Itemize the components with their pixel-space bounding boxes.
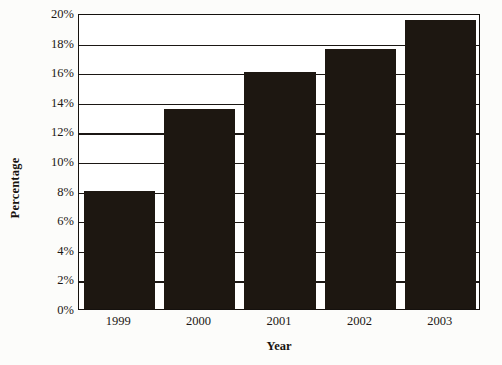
y-axis-tick-label: 18% [30,38,74,50]
y-axis-tick-label: 2% [30,274,74,286]
y-axis-tick-labels: 0%2%4%6%8%10%12%14%16%18%20% [26,0,74,365]
bar [244,72,315,309]
y-axis-title: Percentage [8,128,26,248]
bar [405,20,476,309]
y-axis-tick-label: 10% [30,156,74,168]
x-axis-tick-label: 2000 [158,314,238,329]
x-axis-tick-label: 2001 [239,314,319,329]
bar [325,49,396,309]
y-axis-tick-label: 6% [30,215,74,227]
bar-series [79,15,479,309]
x-axis-tick-labels: 19992000200120022003 [78,314,480,334]
y-axis-tick-label: 14% [30,97,74,109]
y-axis-tick-label: 12% [30,126,74,138]
y-axis-tick-label: 16% [30,67,74,79]
bar [84,191,155,309]
y-axis-tick-label: 8% [30,186,74,198]
plot-area [78,14,480,310]
x-axis-tick-label: 1999 [78,314,158,329]
x-axis-tick-label: 2002 [319,314,399,329]
bar-chart: Percentage 0%2%4%6%8%10%12%14%16%18%20% … [0,0,502,365]
y-axis-tick-label: 0% [30,304,74,316]
bar [164,109,235,309]
x-axis-title: Year [78,339,480,354]
y-axis-tick-label: 20% [30,8,74,20]
y-axis-tick-label: 4% [30,245,74,257]
x-axis-tick-label: 2003 [400,314,480,329]
